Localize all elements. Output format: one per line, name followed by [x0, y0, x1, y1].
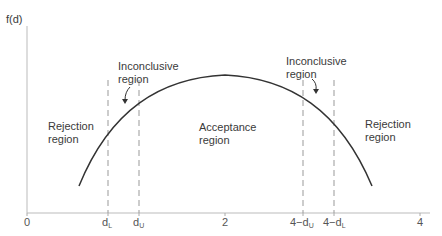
tick-label-dl: dL: [102, 216, 112, 229]
tick-label-2: 2: [222, 216, 228, 228]
tick-label-du: dU: [133, 216, 144, 229]
acceptance-region-label: Acceptance region: [199, 121, 256, 147]
inconclusive-region-left-label: Inconclusive region: [118, 60, 179, 86]
rejection-region-right-label: Rejection region: [365, 118, 411, 144]
tick-label-four-minus-du: 4−dU: [290, 216, 314, 229]
tick-label-4: 4: [417, 216, 423, 228]
rejection-region-left-label: Rejection region: [48, 120, 94, 146]
arrow-head-right: [313, 89, 319, 94]
arrow-head-left: [122, 99, 128, 104]
tick-label-0: 0: [24, 216, 30, 228]
arrow-left-inconclusive: [125, 87, 130, 100]
inconclusive-region-right-label: Inconclusive region: [286, 55, 347, 81]
tick-label-four-minus-dl: 4−dL: [323, 216, 346, 229]
y-axis-label: f(d): [6, 13, 23, 26]
